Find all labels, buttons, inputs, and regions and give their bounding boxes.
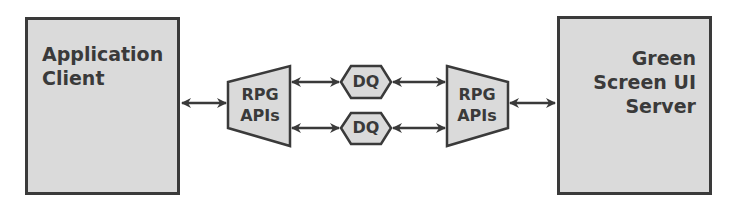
label-line: APIs <box>447 105 507 126</box>
dq-top-label: DQ <box>341 72 391 92</box>
label-line: RPG <box>230 84 290 105</box>
label-line: RPG <box>447 84 507 105</box>
left-rpg-apis-label: RPG APIs <box>230 84 290 126</box>
right-rpg-apis-label: RPG APIs <box>447 84 507 126</box>
dq-bottom-label: DQ <box>341 118 391 138</box>
diagram-connectors <box>0 0 733 205</box>
label-line: APIs <box>230 105 290 126</box>
